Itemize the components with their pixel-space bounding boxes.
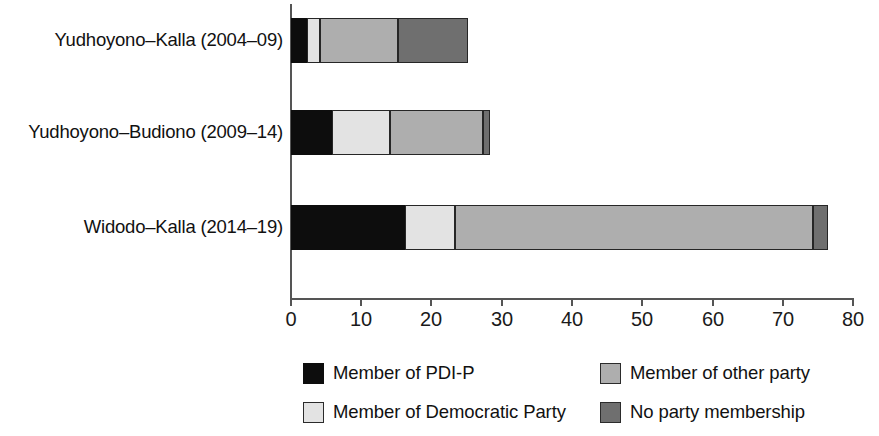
bar-segment-democratic [332, 110, 390, 155]
bar-yudhoyono-kalla [291, 18, 468, 63]
legend-item-democratic: Member of Democratic Party [303, 401, 566, 423]
bar-segment-noparty [483, 110, 490, 155]
x-tick-label-80: 80 [842, 308, 864, 331]
bar-yudhoyono-budiono [291, 110, 490, 155]
x-tick-60 [712, 298, 714, 306]
bar-segment-democratic [307, 18, 320, 63]
bar-segment-pdip [291, 205, 405, 250]
x-tick-label-30: 30 [491, 308, 513, 331]
legend-item-noparty: No party membership [600, 401, 805, 423]
bar-widodo-kalla [291, 205, 828, 250]
x-tick-label-10: 10 [350, 308, 372, 331]
x-tick-label-20: 20 [420, 308, 442, 331]
legend-swatch-noparty-icon [600, 402, 621, 423]
category-label-yudhoyono-kalla: Yudhoyono–Kalla (2004–09) [0, 29, 283, 51]
x-tick-40 [571, 298, 573, 306]
x-tick-80 [852, 298, 854, 306]
plot-area: 0 10 20 30 40 50 60 70 80 [291, 0, 853, 300]
legend-label-democratic: Member of Democratic Party [333, 401, 566, 423]
category-label-yudhoyono-budiono: Yudhoyono–Budiono (2009–14) [0, 121, 283, 143]
x-tick-50 [641, 298, 643, 306]
bar-segment-other [455, 205, 813, 250]
bar-segment-pdip [291, 18, 307, 63]
legend-item-other: Member of other party [600, 362, 810, 384]
x-tick-label-70: 70 [772, 308, 794, 331]
legend-swatch-other-icon [600, 363, 621, 384]
bar-segment-noparty [813, 205, 828, 250]
bar-segment-democratic [405, 205, 455, 250]
legend-item-pdip: Member of PDI-P [303, 362, 474, 384]
x-tick-label-60: 60 [702, 308, 724, 331]
bar-segment-other [320, 18, 398, 63]
x-tick-label-40: 40 [561, 308, 583, 331]
bar-segment-pdip [291, 110, 332, 155]
x-tick-label-50: 50 [631, 308, 653, 331]
x-tick-10 [360, 298, 362, 306]
category-label-widodo-kalla: Widodo–Kalla (2014–19) [0, 216, 283, 238]
legend-swatch-democratic-icon [303, 402, 324, 423]
chart-legend: Member of PDI-P Member of Democratic Par… [303, 362, 873, 434]
x-tick-0 [290, 298, 292, 306]
bar-segment-other [390, 110, 483, 155]
x-tick-20 [430, 298, 432, 306]
x-tick-70 [782, 298, 784, 306]
legend-label-other: Member of other party [630, 362, 810, 384]
x-tick-label-0: 0 [285, 308, 296, 331]
legend-label-pdip: Member of PDI-P [333, 362, 474, 384]
x-tick-30 [501, 298, 503, 306]
legend-label-noparty: No party membership [630, 401, 805, 423]
bar-segment-noparty [398, 18, 468, 63]
legend-swatch-pdip-icon [303, 363, 324, 384]
stacked-bar-chart: Yudhoyono–Kalla (2004–09) Yudhoyono–Budi… [0, 0, 879, 436]
